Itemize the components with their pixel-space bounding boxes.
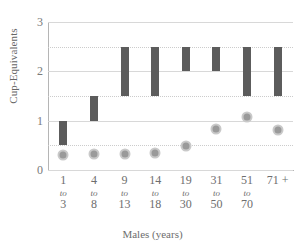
x-axis-tick-labels: 1to34to89to1314to1819to3031to5051to7071 …	[48, 174, 293, 226]
gridline-minor	[48, 96, 293, 97]
data-point-marker	[119, 148, 130, 159]
gridline-major	[48, 71, 293, 72]
gridline-major	[48, 22, 293, 23]
y-axis-tick-label: 2	[23, 64, 43, 79]
x-tick-range-start: 71 +	[256, 174, 300, 188]
data-point-marker	[272, 124, 283, 135]
bar	[59, 121, 67, 146]
bar	[182, 47, 190, 72]
data-point-marker	[211, 124, 222, 135]
x-tick-range-end: 70	[225, 198, 269, 212]
gridline-major	[48, 121, 293, 122]
y-axis-tick-label: 0	[23, 163, 43, 178]
bar	[121, 47, 129, 96]
gridline-minor	[48, 47, 293, 48]
bar	[212, 47, 220, 72]
data-point-marker	[180, 141, 191, 152]
y-axis-title: Cup-Equivalents	[7, 6, 19, 126]
bar	[274, 47, 282, 96]
y-axis-tick-label: 3	[23, 15, 43, 30]
y-axis-tick-label: 1	[23, 113, 43, 128]
data-point-marker	[88, 148, 99, 159]
bar	[151, 47, 159, 96]
gridline-minor	[48, 145, 293, 146]
bar	[90, 96, 98, 121]
bar	[243, 47, 251, 96]
x-axis-tick-label: 71 +	[256, 174, 300, 188]
data-point-marker	[242, 112, 253, 123]
gridline-major	[48, 170, 293, 171]
data-point-marker	[58, 149, 69, 160]
chart-container: Cup-Equivalents 0123 1to34to89to1314to18…	[0, 0, 305, 247]
plot-area	[48, 22, 293, 170]
x-axis-title: Males (years)	[0, 228, 305, 240]
data-point-marker	[150, 148, 161, 159]
